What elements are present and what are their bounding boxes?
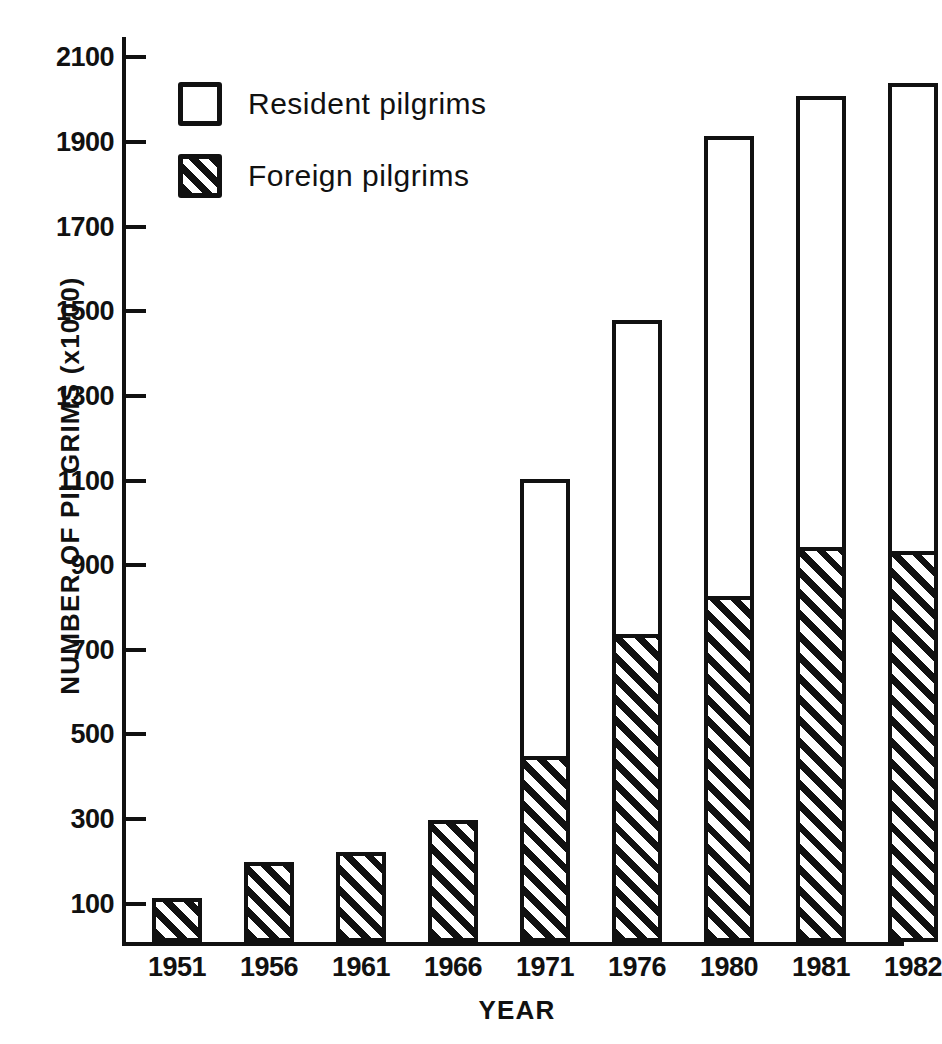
y-axis-tick-label: 900 <box>28 550 114 581</box>
x-axis-tick-labels: 195119561961196619711976198019811982 <box>122 952 912 992</box>
segment-foreign-1980 <box>708 596 750 938</box>
bar-1971 <box>520 479 570 942</box>
segment-foreign-1956 <box>248 866 290 938</box>
legend-swatch-icon <box>178 154 222 198</box>
segment-resident-1981 <box>800 100 842 547</box>
bar-1951 <box>152 898 202 942</box>
x-axis-tick-label-1976: 1976 <box>608 952 666 983</box>
y-axis-tick-label: 2100 <box>28 42 114 73</box>
bar-1976 <box>612 320 662 942</box>
x-axis-line <box>122 942 904 946</box>
x-axis-title: YEAR <box>122 995 912 1026</box>
x-axis-tick-label-1956: 1956 <box>240 952 298 983</box>
segment-resident-1982 <box>892 87 934 551</box>
x-axis-tick-label-1961: 1961 <box>332 952 390 983</box>
y-axis-tick-label: 1100 <box>28 465 114 496</box>
y-axis-tick-label: 1700 <box>28 211 114 242</box>
segment-foreign-1961 <box>340 856 382 938</box>
y-axis-tick-label: 1900 <box>28 127 114 158</box>
y-axis-tick-label: 100 <box>28 888 114 919</box>
segment-resident-1971 <box>524 483 566 756</box>
legend-item-resident: Resident pilgrims <box>178 82 578 126</box>
bar-1961 <box>336 852 386 942</box>
x-axis-tick-label-1980: 1980 <box>700 952 758 983</box>
segment-resident-1976 <box>616 324 658 634</box>
y-axis-tick-label: 500 <box>28 719 114 750</box>
bar-1980 <box>704 136 754 942</box>
bar-1956 <box>244 862 294 942</box>
bar-1982 <box>888 83 938 942</box>
segment-foreign-1976 <box>616 634 658 938</box>
y-axis-tick-label: 1300 <box>28 380 114 411</box>
legend-label: Foreign pilgrims <box>248 159 469 193</box>
segment-foreign-1981 <box>800 547 842 938</box>
chart-legend: Resident pilgrimsForeign pilgrims <box>178 82 578 226</box>
y-axis-tick-label: 300 <box>28 804 114 835</box>
x-axis-tick-label-1982: 1982 <box>884 952 942 983</box>
segment-resident-1980 <box>708 140 750 596</box>
legend-item-foreign: Foreign pilgrims <box>178 154 578 198</box>
x-axis-tick-label-1971: 1971 <box>516 952 574 983</box>
segment-foreign-1966 <box>432 824 474 938</box>
legend-swatch-icon <box>178 82 222 126</box>
x-axis-tick-label-1966: 1966 <box>424 952 482 983</box>
bar-1981 <box>796 96 846 942</box>
segment-foreign-1951 <box>156 902 198 938</box>
y-axis-tick-label: 1500 <box>28 296 114 327</box>
legend-label: Resident pilgrims <box>248 87 487 121</box>
segment-foreign-1971 <box>524 756 566 938</box>
x-axis-tick-label-1951: 1951 <box>148 952 206 983</box>
x-axis-tick-label-1981: 1981 <box>792 952 850 983</box>
segment-foreign-1982 <box>892 551 934 938</box>
y-axis-tick-label: 700 <box>28 634 114 665</box>
bar-1966 <box>428 820 478 942</box>
y-axis-tick-labels: 100300500700900110013001500170019002100 <box>24 0 114 1044</box>
